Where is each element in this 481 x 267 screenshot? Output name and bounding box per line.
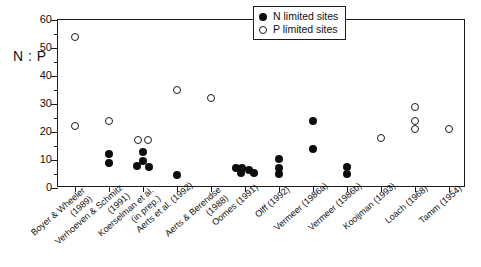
data-point [411,117,419,125]
y-axis-tick-major [51,20,58,21]
y-axis-tick-major [51,104,58,105]
data-point [173,86,181,94]
y-axis-tick-major [51,132,58,133]
data-point [275,155,283,163]
data-point [207,94,215,102]
open-circle-icon [259,26,267,34]
data-point [145,163,153,171]
y-axis-tick-label: 30 [6,98,52,109]
y-axis-tick-minor [54,34,58,35]
legend-label: P limited sites [273,24,338,35]
y-axis-tick-label: 10 [6,154,52,165]
data-point [71,122,79,130]
data-point [309,117,317,125]
data-point-layer [58,20,464,186]
y-axis-tick-label: 60 [6,14,52,25]
y-axis-tick-minor [54,174,58,175]
data-point [71,33,79,41]
data-point [173,171,181,179]
legend-entry: N limited sites [259,10,338,23]
plot-area [57,19,465,187]
y-axis-tick-label: 40 [6,70,52,81]
data-point [309,145,317,153]
data-point [411,125,419,133]
data-point [105,117,113,125]
data-point [377,134,385,142]
y-axis-tick-major [51,76,58,77]
data-point [411,103,419,111]
y-axis-tick-label: 50 [6,42,52,53]
filled-circle-icon [259,13,267,21]
data-point [105,150,113,158]
scatter-plot-figure: N : P 0102030405060 Boyer & Wheeler(1989… [0,0,481,267]
x-axis-tick-labels: Boyer & Wheeler(1989)Verhoeven & Schmitz… [0,187,481,267]
y-axis-tick-major [51,48,58,49]
data-point [445,125,453,133]
data-point [237,169,245,177]
data-point [250,169,258,177]
y-axis-tick-minor [54,146,58,147]
y-axis-tick-major [51,160,58,161]
y-axis-tick-minor [54,118,58,119]
y-axis-tick-label: 20 [6,126,52,137]
y-axis-tick-minor [54,62,58,63]
data-point [105,159,113,167]
data-point [144,136,152,144]
data-point [275,170,283,178]
data-point [343,170,351,178]
legend-label: N limited sites [273,11,338,22]
legend-entry: P limited sites [259,23,338,36]
data-point [133,162,141,170]
y-axis-tick-minor [54,90,58,91]
data-point [139,148,147,156]
chart-legend: N limited sites P limited sites [253,6,346,40]
y-axis-tick-labels: 0102030405060 [0,19,52,187]
data-point [134,136,142,144]
